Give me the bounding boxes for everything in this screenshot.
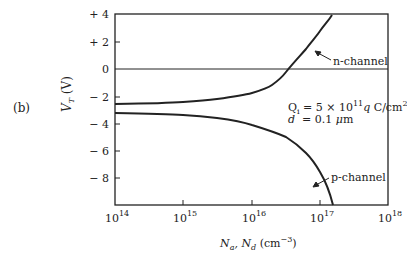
x-tick-label: 1014 (105, 213, 129, 224)
x-axis-label: Na, Nd (cm−3) (220, 236, 297, 252)
y-axis-subscript: T (67, 98, 76, 103)
n-channel-curve (115, 15, 332, 104)
y-axis-symbol: V (60, 103, 74, 112)
y-tick-label: − 8 (83, 173, 109, 184)
panel-label: (b) (13, 102, 30, 114)
d-annotation: d = 0.1 μm (288, 114, 353, 125)
y-axis-unit: (V) (60, 76, 74, 94)
y-tick-label: + 4 (83, 9, 109, 20)
n-channel-label: n-channel (333, 56, 388, 67)
p-channel-label: p-channel (331, 172, 386, 183)
x-tick-label: 1016 (242, 213, 266, 224)
y-tick-label: − 2 (83, 92, 109, 103)
x-tick-marks (183, 200, 320, 205)
x-tick-label: 1017 (310, 213, 334, 224)
x-tick-label: 1015 (173, 213, 197, 224)
p-channel-curve (115, 113, 333, 205)
y-tick-marks (115, 42, 120, 178)
y-tick-label: − 6 (83, 146, 109, 157)
y-tick-label: + 2 (83, 37, 109, 48)
y-axis-label: VT (V) (60, 76, 76, 112)
y-tick-label: 0 (83, 64, 109, 75)
figure: (b) VT (V) + 4 + 2 0 − 2 − 4 − 6 − 8 101… (0, 0, 407, 256)
plot-area (0, 0, 407, 256)
y-tick-label: − 4 (83, 119, 109, 130)
x-tick-label: 1018 (378, 213, 402, 224)
